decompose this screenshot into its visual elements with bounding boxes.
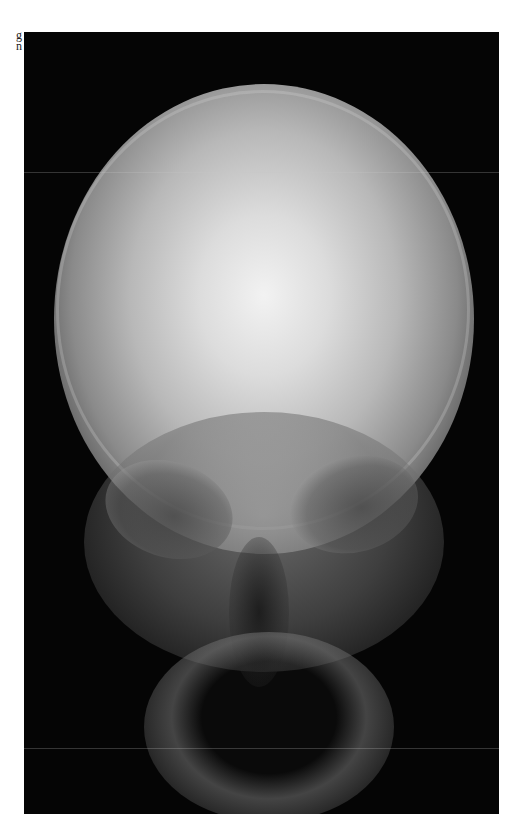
skull-xray-image: [24, 32, 499, 814]
mandible-and-teeth: [144, 632, 394, 814]
scan-artifact-line: [24, 172, 499, 173]
cut-off-caption-text: g n: [2, 30, 22, 52]
caption-line-2: n: [2, 41, 22, 52]
scan-artifact-line: [24, 748, 499, 749]
